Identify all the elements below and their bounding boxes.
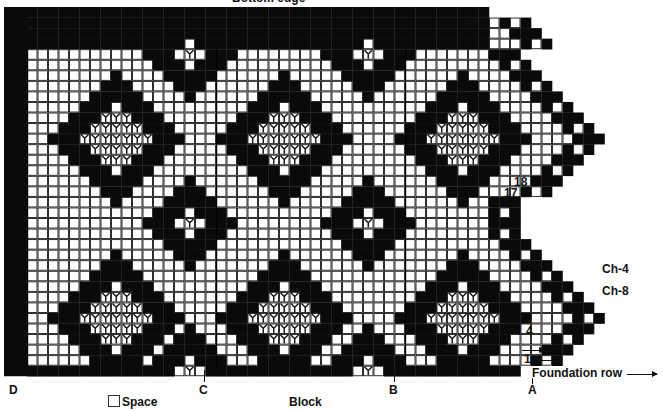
section-label-d: D — [9, 383, 18, 397]
row-label-17: 17 — [504, 186, 517, 200]
row-label-1: 1 — [524, 352, 531, 366]
foundation-arrow-icon — [627, 374, 657, 375]
side-label-ch8: Ch-8 — [602, 284, 629, 298]
legend-block: Block — [289, 395, 322, 409]
section-tick-c — [204, 370, 205, 382]
space-swatch-icon — [108, 395, 120, 407]
arrow-left-icon — [536, 360, 554, 361]
section-label-a: A — [528, 383, 537, 397]
side-label-ch4: Ch-4 — [602, 262, 629, 276]
legend-space-label: Space — [122, 395, 157, 409]
section-label-c: C — [199, 383, 208, 397]
foundation-row-label: Foundation row — [532, 366, 622, 380]
row-label-33: 33 — [462, 14, 475, 28]
section-tick-b — [394, 370, 395, 382]
section-label-b: B — [389, 383, 398, 397]
arrow-right-icon — [522, 350, 544, 351]
legend-space: Space — [108, 395, 157, 409]
chart-title: Bottom edge — [232, 0, 305, 5]
row-label-4: 4 — [526, 324, 533, 338]
